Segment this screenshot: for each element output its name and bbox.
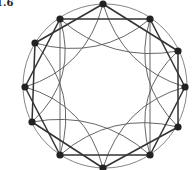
graph-node (146, 15, 153, 22)
arc-edge (60, 123, 178, 155)
arc-edge (103, 87, 185, 168)
straight-edge (103, 127, 178, 168)
graph-node (28, 118, 35, 125)
graph-node (181, 83, 188, 90)
straight-edge (103, 4, 178, 51)
graph-node (146, 151, 153, 158)
straight-edge (32, 43, 35, 122)
graph-node (56, 15, 63, 22)
graph-node (99, 0, 106, 7)
graph-node (56, 151, 63, 158)
arc-edge (103, 4, 185, 87)
graph-node (174, 123, 181, 130)
outer-circle (23, 4, 187, 168)
graph-node (99, 164, 106, 170)
circulant-graph-diagram (0, 0, 193, 170)
graph-node (174, 47, 181, 54)
straight-edge (35, 4, 103, 43)
graph-node (31, 39, 38, 46)
straight-edge (32, 122, 103, 168)
graph-node (21, 83, 28, 90)
